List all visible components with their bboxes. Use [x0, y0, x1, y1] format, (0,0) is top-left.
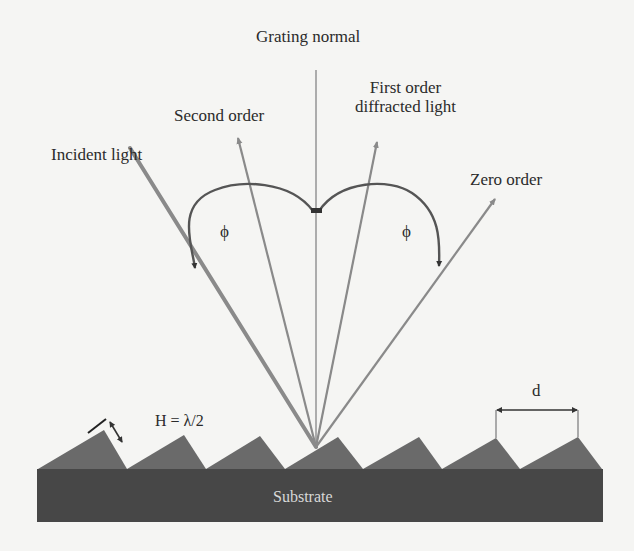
blaze-height-label: H = λ/2 [155, 411, 204, 430]
incident-light-ray [130, 148, 316, 447]
period-label: d [532, 381, 541, 400]
angle-arc-right [319, 184, 439, 266]
first-order-label-line1: First order [338, 78, 473, 97]
incident-light-label: Incident light [51, 145, 142, 164]
first-order-label-line2: diffracted light [338, 97, 473, 116]
first-order-label: First order diffracted light [338, 78, 473, 116]
angle-arc-left [189, 184, 313, 268]
phi-left-label: ϕ [220, 222, 229, 241]
substrate-label: Substrate [273, 487, 333, 506]
diagram-graphics [0, 0, 634, 551]
blaze-height-arrow [110, 422, 122, 442]
first-order-ray [316, 142, 377, 447]
grating-teeth [38, 430, 602, 469]
diffraction-grating-diagram: Grating normal Second order First order … [0, 0, 634, 551]
phi-right-label: ϕ [402, 222, 411, 241]
normal-arc-junction [311, 208, 322, 213]
zero-order-label: Zero order [470, 170, 542, 189]
grating-normal-label: Grating normal [256, 27, 360, 46]
second-order-label: Second order [174, 106, 264, 125]
